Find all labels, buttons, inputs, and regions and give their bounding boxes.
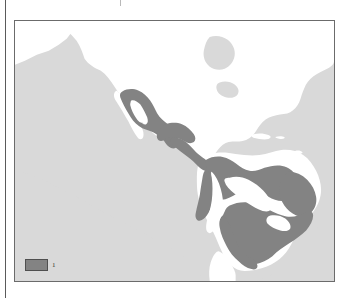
figure-root: 1 bbox=[0, 0, 361, 298]
top-tick-mark-icon bbox=[120, 0, 121, 6]
map-legend: 1 bbox=[25, 259, 56, 271]
legend-swatch-1 bbox=[25, 259, 48, 271]
map-canvas bbox=[15, 21, 334, 281]
legend-label-1: 1 bbox=[52, 262, 56, 269]
page-left-rule bbox=[5, 0, 6, 298]
map-panel: 1 bbox=[14, 20, 335, 282]
